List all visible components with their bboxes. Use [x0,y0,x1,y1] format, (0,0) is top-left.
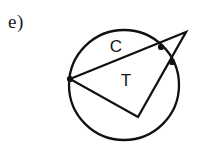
geometry-diagram: C T [0,0,197,163]
intersection-dot-upper-right [158,44,164,50]
intersection-dot-left [67,76,73,82]
figure-container: e) C T [0,0,197,163]
intersection-dot-lower-right [169,59,175,65]
triangle-label: T [121,71,131,90]
circle-label: C [110,37,122,56]
